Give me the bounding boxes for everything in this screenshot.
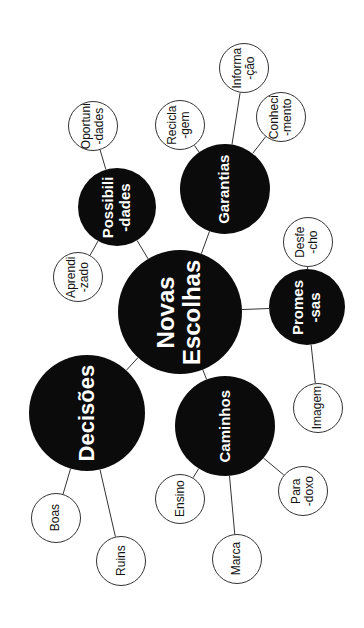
node-label: Caminhos: [217, 390, 234, 463]
node-ensino: Ensino: [155, 474, 205, 524]
node-conhecimento: Conheci -mento: [256, 92, 306, 142]
connector-garantias-informacao: [232, 93, 240, 145]
node-label: Desfe -cho: [295, 226, 321, 257]
node-label: Conheci -mento: [268, 95, 294, 139]
connector-caminhos-paradoxo: [263, 458, 283, 475]
node-caminhos: Caminhos: [175, 376, 275, 476]
connector-possibilidades-aprendizado: [90, 241, 98, 255]
node-label: Ensino: [173, 481, 186, 518]
connector-garantias-conhecimento: [253, 137, 266, 154]
node-boas: Boas: [31, 493, 81, 543]
node-marca: Marca: [212, 534, 262, 584]
node-oportunidades: Oportuni -dades: [68, 101, 118, 151]
node-label: Marca: [230, 542, 243, 575]
connector-caminhos-ensino: [193, 469, 199, 478]
connector-decisoes-boas: [63, 469, 70, 494]
mind-map-canvas: Novas EscolhasDecisõesBoasRuinsCaminhosE…: [0, 0, 364, 628]
node-imagem: Imagem: [293, 383, 343, 433]
node-ruins: Ruins: [96, 536, 146, 586]
node-label: Informa -ção: [231, 48, 257, 89]
node-label: Aprendi -zado: [65, 256, 91, 297]
node-label: Oportuni -dades: [80, 103, 106, 149]
node-desfecho: Desfe -cho: [283, 217, 333, 267]
connector-caminhos-marca: [229, 476, 234, 534]
connector-decisoes-ruins: [100, 470, 115, 537]
connector-novas-escolhas-decisoes: [126, 358, 138, 371]
connector-possibilidades-oportunidades: [100, 150, 106, 170]
node-label: Novas Escolhas: [154, 259, 207, 364]
node-label: Imagem: [311, 386, 324, 429]
connector-novas-escolhas-garantias: [201, 231, 209, 254]
node-label: Garantias: [217, 154, 234, 223]
node-label: Possibili -dades: [101, 176, 134, 238]
node-paradoxo: Para -doxo: [278, 466, 328, 516]
node-label: Decisões: [75, 365, 99, 462]
connector-novas-escolhas-caminhos: [203, 370, 207, 380]
node-informacao: Informa -ção: [219, 43, 269, 93]
connector-promessas-imagem: [311, 345, 315, 383]
node-possibilidades: Possibili -dades: [78, 168, 156, 246]
connector-novas-escolhas-possibilidades: [137, 240, 148, 258]
node-garantias: Garantias: [180, 144, 270, 234]
node-label: Promes -sas: [291, 279, 324, 334]
node-promessas: Promes -sas: [269, 269, 345, 345]
connector-novas-escolhas-promessas: [242, 308, 269, 309]
node-label: Boas: [49, 504, 62, 531]
node-label: Ruins: [114, 546, 127, 577]
node-aprendizado: Aprendi -zado: [53, 252, 103, 302]
node-decisoes: Decisões: [29, 355, 145, 471]
node-label: Para -doxo: [290, 476, 316, 506]
node-label: Recicla -gem: [167, 105, 193, 144]
node-reciclagem: Recicla -gem: [155, 100, 205, 150]
node-novas-escolhas: Novas Escolhas: [118, 250, 242, 374]
